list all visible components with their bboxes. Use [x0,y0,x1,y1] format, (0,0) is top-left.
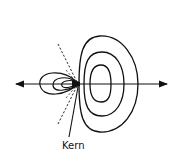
nucleus-pointer-line [69,87,78,137]
orbital-diagram [0,0,181,155]
nucleus-label: Kern [62,141,85,151]
